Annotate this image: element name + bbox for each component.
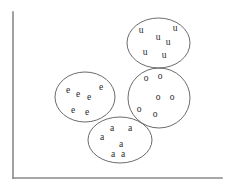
a-cluster: aaaaaa [88,117,152,163]
data-point-u-2: u [156,32,161,42]
cluster-plot: uuuuuuooooooeeeeeeaaaaaa [0,0,228,187]
data-point-e-5: e [71,105,75,115]
figure-container: uuuuuuooooooeeeeeeaaaaaa [0,0,228,187]
data-point-e-1: e [66,85,70,95]
data-point-e-2: e [76,89,80,99]
data-point-o-4: o [170,92,175,102]
data-point-a-4: a [119,139,124,149]
data-point-u-6: u [162,50,167,60]
o-cluster: oooooo [128,68,190,128]
data-point-a-6: a [121,149,126,159]
data-point-e-6: e [85,107,89,117]
data-point-o-2: o [158,71,163,81]
data-point-a-2: a [128,123,133,133]
data-point-a-1: a [110,123,115,133]
e-cluster: eeeeee [55,72,115,122]
data-point-o-1: o [144,73,149,83]
data-point-o-6: o [153,109,158,119]
u-cluster-outline [127,18,190,68]
data-point-e-3: e [87,92,91,102]
data-point-u-1: u [139,25,144,35]
data-point-a-5: a [111,149,116,159]
data-point-e-4: e [99,82,103,92]
data-point-a-3: a [100,132,105,142]
u-cluster: uuuuuu [127,18,190,68]
data-point-u-5: u [143,47,148,57]
data-point-o-5: o [137,104,142,114]
data-point-u-3: u [166,37,171,47]
axes-group [13,12,222,178]
clusters-group: uuuuuuooooooeeeeeeaaaaaa [55,18,190,163]
data-point-o-3: o [156,92,161,102]
data-point-u-4: u [173,23,178,33]
